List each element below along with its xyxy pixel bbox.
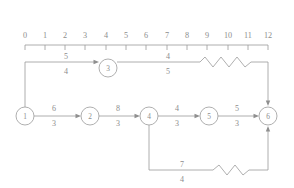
edge-1-to-3-path (25, 62, 97, 107)
edge-label-top: 7 (180, 160, 184, 169)
edge-1-to-3-arrowhead (94, 60, 100, 64)
edge-3-to-6 (117, 57, 270, 106)
node-6-label: 6 (266, 112, 270, 121)
edge-label-bottom: 3 (52, 119, 56, 128)
node-5-label: 5 (207, 112, 211, 121)
edge-4-to-6-lower (149, 125, 270, 175)
node-4-label: 4 (147, 112, 151, 121)
activity-network-diagram: 0 1 2 3 4 5 6 7 8 9 10 11 12 (0, 0, 294, 188)
node-2[interactable]: 2 (81, 107, 99, 125)
edge-1-to-3 (25, 60, 99, 107)
edge-5-to-6-arrowhead (254, 114, 260, 118)
edge-label-bottom: 4 (64, 67, 68, 76)
edge-4-to-5 (158, 114, 200, 118)
edge-1-to-2 (34, 114, 81, 118)
axis-tick-label: 11 (244, 31, 252, 40)
node-1[interactable]: 1 (16, 107, 34, 125)
node-3-label: 3 (106, 64, 110, 73)
axis-tick-label: 10 (224, 31, 232, 40)
axis-tick-label: 6 (144, 31, 148, 40)
axis-tick-label: 7 (165, 31, 169, 40)
node-6[interactable]: 6 (259, 107, 277, 125)
axis-tick-label: 5 (124, 31, 128, 40)
axis-tick-label: 12 (264, 31, 272, 40)
edge-label-top: 5 (235, 104, 239, 113)
node-3[interactable]: 3 (99, 59, 117, 77)
network-diagram-canvas: 0 1 2 3 4 5 6 7 8 9 10 11 12 (0, 0, 294, 188)
edge-3-to-6-path (117, 57, 268, 104)
time-axis: 0 1 2 3 4 5 6 7 8 9 10 11 12 (23, 31, 272, 50)
edge-1-to-2-arrowhead (76, 114, 82, 118)
node-5[interactable]: 5 (200, 107, 218, 125)
edge-5-to-6 (218, 114, 259, 118)
axis-tick-label: 3 (83, 31, 87, 40)
nodes: 1 2 3 4 5 6 (16, 59, 277, 125)
axis-tick-label: 1 (43, 31, 47, 40)
edge-4-to-5-arrowhead (195, 114, 201, 118)
axis-tick-labels: 0 1 2 3 4 5 6 7 8 9 10 11 12 (23, 31, 272, 40)
edge-4-to-6-lower-arrowhead (266, 126, 270, 132)
edge-2-to-4-arrowhead (135, 114, 141, 118)
node-4[interactable]: 4 (140, 107, 158, 125)
axis-tick-label: 8 (185, 31, 189, 40)
axis-tick-label: 2 (63, 31, 67, 40)
edge-4-to-6-lower-path (149, 125, 268, 175)
edge-label-top: 5 (64, 52, 68, 61)
edge-label-top: 4 (175, 104, 179, 113)
node-2-label: 2 (88, 112, 92, 121)
edge-label-bottom: 3 (116, 119, 120, 128)
edge-label-bottom: 3 (175, 119, 179, 128)
axis-tick-label: 4 (104, 31, 108, 40)
edge-label-bottom: 4 (180, 175, 184, 184)
axis-tick-marks (25, 45, 268, 50)
edge-3-to-6-arrowhead (266, 101, 270, 107)
edge-label-bottom: 3 (235, 119, 239, 128)
axis-tick-label: 9 (205, 31, 209, 40)
edge-label-top: 8 (116, 104, 120, 113)
edge-label-top: 6 (52, 104, 56, 113)
edge-label-top: 4 (166, 52, 170, 61)
edge-label-bottom: 5 (166, 67, 170, 76)
edge-2-to-4 (99, 114, 140, 118)
node-1-label: 1 (23, 112, 27, 121)
axis-tick-label: 0 (23, 31, 27, 40)
